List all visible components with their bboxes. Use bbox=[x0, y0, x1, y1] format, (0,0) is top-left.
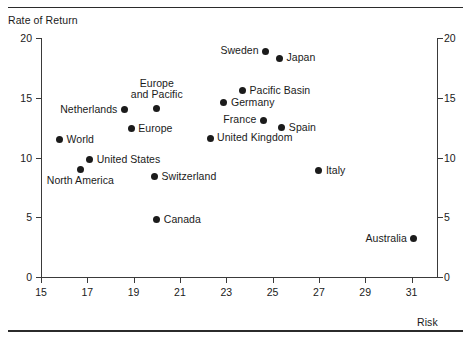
y-tick-right-0 bbox=[438, 277, 443, 278]
data-point bbox=[77, 166, 84, 173]
x-axis-line bbox=[41, 277, 438, 278]
data-point bbox=[86, 156, 93, 163]
y-tick-label-left-15: 15 bbox=[6, 93, 32, 104]
data-point-label: Japan bbox=[287, 52, 316, 64]
y-tick-label-left-0: 0 bbox=[6, 272, 32, 283]
top-divider-rule bbox=[8, 7, 463, 8]
data-point-label: Australia bbox=[366, 233, 407, 245]
data-point-label: United Kingdom bbox=[217, 132, 292, 144]
data-point bbox=[260, 117, 267, 124]
y-tick-right-5 bbox=[438, 217, 443, 218]
data-point bbox=[151, 173, 158, 180]
data-point bbox=[220, 99, 227, 106]
data-point bbox=[410, 235, 417, 242]
data-point-label: World bbox=[67, 134, 94, 146]
x-tick-label-29: 29 bbox=[350, 287, 380, 298]
y-tick-right-15 bbox=[438, 98, 443, 99]
y-axis-left-line bbox=[41, 38, 42, 278]
x-tick-21 bbox=[180, 278, 181, 283]
y-tick-right-20 bbox=[438, 38, 443, 39]
x-tick-label-17: 17 bbox=[72, 287, 102, 298]
x-tick-label-31: 31 bbox=[397, 287, 427, 298]
y-tick-left-20 bbox=[36, 38, 41, 39]
data-point-label: France bbox=[223, 114, 256, 126]
data-point-label: Pacific Basin bbox=[249, 85, 310, 97]
x-tick-25 bbox=[273, 278, 274, 283]
x-tick-27 bbox=[319, 278, 320, 283]
data-point bbox=[262, 48, 269, 55]
y-tick-label-left-5: 5 bbox=[6, 212, 32, 223]
x-tick-label-25: 25 bbox=[258, 287, 288, 298]
data-point-label: Canada bbox=[164, 214, 201, 226]
x-tick-label-15: 15 bbox=[26, 287, 56, 298]
data-point bbox=[128, 125, 135, 132]
y-tick-left-10 bbox=[36, 158, 41, 159]
data-point bbox=[121, 106, 128, 113]
data-point bbox=[239, 87, 246, 94]
x-tick-29 bbox=[365, 278, 366, 283]
data-point-label: Switzerland bbox=[161, 171, 216, 183]
data-point bbox=[276, 55, 283, 62]
data-point bbox=[153, 216, 160, 223]
data-point bbox=[153, 105, 160, 112]
x-tick-31 bbox=[412, 278, 413, 283]
y-tick-label-left-10: 10 bbox=[6, 153, 32, 164]
y-tick-left-15 bbox=[36, 98, 41, 99]
y-tick-label-right-0: 0 bbox=[444, 272, 470, 283]
x-tick-label-27: 27 bbox=[304, 287, 334, 298]
data-point bbox=[315, 167, 322, 174]
bottom-divider-rule bbox=[8, 330, 463, 332]
y-tick-left-5 bbox=[36, 217, 41, 218]
data-point bbox=[56, 136, 63, 143]
y-tick-label-right-20: 20 bbox=[444, 33, 470, 44]
data-point-label: Europe bbox=[138, 123, 172, 135]
y-tick-label-left-20: 20 bbox=[6, 33, 32, 44]
data-point-label: Spain bbox=[289, 122, 316, 134]
x-tick-label-19: 19 bbox=[119, 287, 149, 298]
y-axis-title: Rate of Return bbox=[8, 14, 78, 26]
data-point-label: Europe and Pacific bbox=[97, 78, 217, 101]
data-point-label: Sweden bbox=[220, 45, 258, 57]
x-tick-label-21: 21 bbox=[165, 287, 195, 298]
x-tick-23 bbox=[226, 278, 227, 283]
data-point-label: Germany bbox=[231, 97, 275, 109]
scatter-chart-figure: Rate of Return Risk 05101520051015201517… bbox=[0, 0, 471, 341]
x-tick-19 bbox=[134, 278, 135, 283]
y-tick-label-right-10: 10 bbox=[444, 153, 470, 164]
x-tick-15 bbox=[41, 278, 42, 283]
y-tick-right-10 bbox=[438, 158, 443, 159]
x-tick-17 bbox=[87, 278, 88, 283]
data-point bbox=[207, 135, 214, 142]
data-point-label: United States bbox=[97, 154, 161, 166]
data-point bbox=[278, 124, 285, 131]
x-tick-label-23: 23 bbox=[211, 287, 241, 298]
y-tick-label-right-15: 15 bbox=[444, 93, 470, 104]
x-axis-title: Risk bbox=[417, 316, 438, 328]
data-point-label: Italy bbox=[326, 165, 346, 177]
data-point-label: North America bbox=[20, 175, 140, 187]
data-point-label: Netherlands bbox=[60, 104, 117, 116]
y-tick-label-right-5: 5 bbox=[444, 212, 470, 223]
